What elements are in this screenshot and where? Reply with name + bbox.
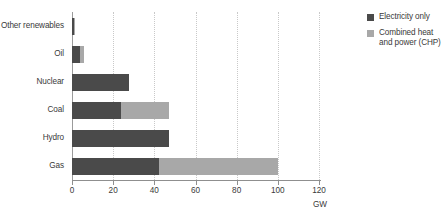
bar-segment-electricity-only bbox=[72, 130, 169, 147]
tick-mark-80 bbox=[237, 181, 238, 185]
bar-nuclear bbox=[72, 74, 129, 91]
tick-mark-60 bbox=[196, 181, 197, 185]
legend-item-electricity-only[interactable]: Electricity only bbox=[366, 12, 448, 22]
bar-segment-chp bbox=[121, 102, 168, 119]
bar-segment-chp bbox=[159, 158, 277, 175]
x-axis-tick-marks bbox=[72, 181, 321, 185]
bar-segment-chp bbox=[74, 18, 75, 35]
plot-area bbox=[72, 12, 319, 180]
bar-other-renewables bbox=[72, 18, 75, 35]
bar-segment-electricity-only bbox=[72, 74, 129, 91]
x-axis-tick-label-60: 60 bbox=[181, 186, 211, 196]
tick-mark-0 bbox=[72, 181, 73, 185]
x-axis-tick-label-40: 40 bbox=[139, 186, 169, 196]
bar-segment-electricity-only bbox=[72, 158, 159, 175]
bar-segment-electricity-only bbox=[72, 102, 121, 119]
bar-gas bbox=[72, 158, 278, 175]
chart-legend: Electricity onlyCombined heat and power … bbox=[366, 12, 448, 54]
x-axis-tick-label-80: 80 bbox=[222, 186, 252, 196]
legend-item-chp[interactable]: Combined heat and power (CHP) bbox=[366, 28, 448, 48]
bar-hydro bbox=[72, 130, 169, 147]
x-axis-tick-label-0: 0 bbox=[57, 186, 87, 196]
tick-mark-100 bbox=[278, 181, 279, 185]
y-axis-label-other-renewables: Other renewables bbox=[0, 21, 64, 30]
x-axis-tick-label-120: 120 bbox=[304, 186, 334, 196]
y-axis-label-hydro: Hydro bbox=[0, 133, 64, 142]
y-axis-label-oil: Oil bbox=[0, 49, 64, 58]
y-axis-label-gas: Gas bbox=[0, 161, 64, 170]
bar-chart: Other renewablesOilNuclearCoalHydroGas 0… bbox=[0, 0, 448, 218]
tick-mark-120 bbox=[319, 181, 320, 185]
gridline-120 bbox=[319, 12, 320, 180]
tick-mark-40 bbox=[154, 181, 155, 185]
y-axis-label-coal: Coal bbox=[0, 105, 64, 114]
legend-swatch-icon-chp bbox=[366, 29, 375, 38]
legend-label: Electricity only bbox=[379, 12, 430, 22]
x-axis-title: GW bbox=[300, 200, 340, 209]
bar-segment-electricity-only bbox=[72, 46, 80, 63]
bar-coal bbox=[72, 102, 169, 119]
x-axis-tick-labels: 020406080100120 bbox=[0, 186, 448, 198]
bar-oil bbox=[72, 46, 84, 63]
bar-segment-chp bbox=[80, 46, 84, 63]
y-axis-label-nuclear: Nuclear bbox=[0, 77, 64, 86]
legend-swatch-icon-elec bbox=[366, 13, 375, 22]
x-axis-tick-label-20: 20 bbox=[98, 186, 128, 196]
tick-mark-20 bbox=[113, 181, 114, 185]
y-axis-category-labels: Other renewablesOilNuclearCoalHydroGas bbox=[0, 12, 68, 180]
legend-label: Combined heat and power (CHP) bbox=[379, 28, 448, 48]
x-axis-tick-label-100: 100 bbox=[263, 186, 293, 196]
